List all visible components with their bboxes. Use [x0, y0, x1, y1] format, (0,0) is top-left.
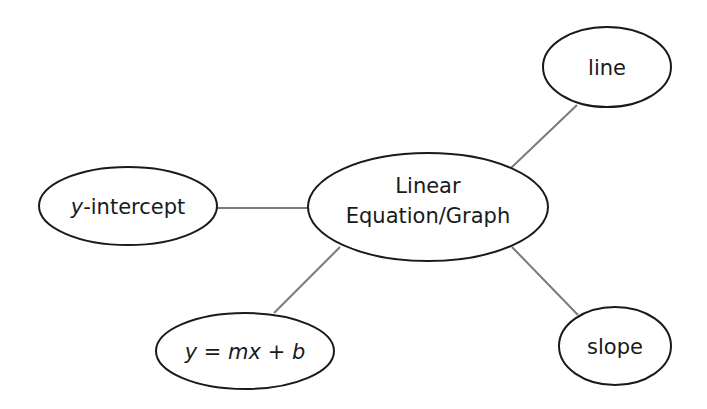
edge-center-to-slope — [512, 247, 578, 315]
eq-b: b — [292, 340, 305, 364]
node-slope: slope — [559, 307, 671, 385]
node-slope-intercept-form: y = mx + b — [156, 313, 334, 389]
node-center-label-line1: Linear — [395, 174, 461, 198]
eq-plus: + — [261, 340, 292, 364]
node-y-intercept: y-intercept — [39, 167, 217, 245]
eq-mx: mx — [228, 340, 261, 364]
eq-equals: = — [197, 340, 228, 364]
eq-y: y — [184, 340, 198, 364]
node-slope-label: slope — [587, 335, 643, 359]
node-center-label-line2: Equation/Graph — [346, 204, 511, 228]
node-line: line — [543, 27, 671, 107]
italic-y: y — [70, 195, 84, 219]
edge-center-to-equation — [274, 247, 340, 313]
node-equation-label: y = mx + b — [184, 340, 306, 364]
node-y-intercept-label: y-intercept — [70, 195, 186, 219]
node-linear-equation-graph: Linear Equation/Graph — [308, 153, 548, 261]
node-line-label: line — [588, 56, 626, 80]
edge-center-to-line — [511, 105, 577, 168]
intercept-text: -intercept — [83, 195, 185, 219]
concept-map: line Linear Equation/Graph y-intercept y… — [0, 0, 707, 409]
